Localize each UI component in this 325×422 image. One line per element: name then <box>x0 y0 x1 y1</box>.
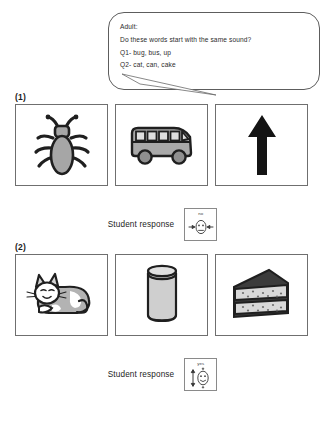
item-1-picture-row <box>15 104 308 186</box>
up-arrow-icon <box>245 113 279 177</box>
picture-card-bus[interactable] <box>115 104 208 186</box>
speaker-label: Adult: <box>120 21 312 34</box>
picture-card-can[interactable] <box>115 254 208 336</box>
speech-bubble-tail-icon <box>120 62 220 102</box>
cake-slice-icon <box>229 267 295 323</box>
picture-card-cat[interactable] <box>15 254 108 336</box>
response-card-text-2: yes <box>197 361 204 366</box>
item-1-student-response: Student response no <box>15 206 310 242</box>
picture-card-cake[interactable] <box>215 254 308 336</box>
student-response-label-1: Student response <box>108 220 175 229</box>
item-1-number: (1) <box>15 92 26 102</box>
prompt-line-2: Q1- bug, bus, up <box>120 47 312 60</box>
no-face-converging-arrows-icon <box>186 217 216 237</box>
cat-icon <box>25 267 99 323</box>
footer-faint-text <box>6 415 8 421</box>
prompt-line-1: Do these words start with the same sound… <box>120 34 312 47</box>
item-2-picture-row <box>15 254 308 336</box>
can-icon <box>141 264 183 326</box>
item-2-student-response: Student response yes <box>15 356 310 392</box>
response-card-text-1: no <box>198 211 203 216</box>
bug-icon <box>33 114 91 176</box>
bus-icon <box>127 123 197 167</box>
response-card-yes[interactable]: yes <box>184 358 217 391</box>
picture-card-bug[interactable] <box>15 104 108 186</box>
picture-card-up-arrow[interactable] <box>215 104 308 186</box>
yes-face-vertical-arrow-icon <box>187 367 215 389</box>
item-2-number: (2) <box>15 242 26 252</box>
student-response-label-2: Student response <box>108 370 175 379</box>
response-card-no[interactable]: no <box>184 208 217 241</box>
